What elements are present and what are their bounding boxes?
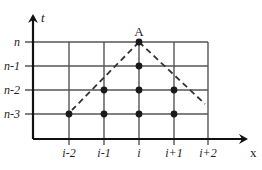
t-axis-label: t <box>41 10 45 25</box>
grid-point <box>136 111 143 118</box>
grid-point <box>101 87 108 94</box>
grid-points <box>66 39 178 118</box>
axes: t x <box>33 10 257 160</box>
row-label: n-2 <box>4 83 20 97</box>
tick-labels: nn-1n-2n-3i-2i-1ii+1i+2 <box>4 35 217 160</box>
grid-point <box>136 63 143 70</box>
diagram-canvas: t x nn-1n-2n-3i-2i-1ii+1i+2 A <box>0 0 262 170</box>
dashed-line-left <box>72 42 139 110</box>
grid-point <box>171 87 178 94</box>
row-label: n-3 <box>4 107 20 121</box>
column-label: i-2 <box>62 146 75 160</box>
row-label: n-1 <box>4 59 20 73</box>
column-label: i+1 <box>165 146 182 160</box>
dashed-line-right <box>139 42 205 104</box>
column-label: i+2 <box>199 146 216 160</box>
grid-point <box>66 111 73 118</box>
grid-point <box>101 111 108 118</box>
grid-point <box>136 39 143 46</box>
grid-point <box>171 111 178 118</box>
column-label: i-1 <box>97 146 110 160</box>
grid <box>25 42 208 145</box>
apex-label-A: A <box>134 24 144 39</box>
x-axis-label: x <box>250 145 257 160</box>
column-label: i <box>137 146 140 160</box>
row-label: n <box>14 35 20 49</box>
grid-point <box>136 87 143 94</box>
